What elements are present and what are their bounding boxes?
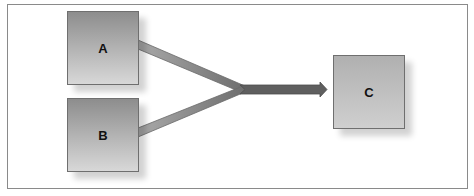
node-a: A bbox=[67, 11, 139, 85]
node-b: B bbox=[67, 98, 139, 172]
connector-b bbox=[138, 86, 245, 137]
arrow-to-c bbox=[240, 82, 327, 97]
node-b-label: B bbox=[98, 128, 107, 143]
node-a-label: A bbox=[98, 41, 107, 56]
node-c: C bbox=[333, 55, 405, 129]
connector-a bbox=[138, 40, 245, 93]
node-c-label: C bbox=[364, 85, 373, 100]
